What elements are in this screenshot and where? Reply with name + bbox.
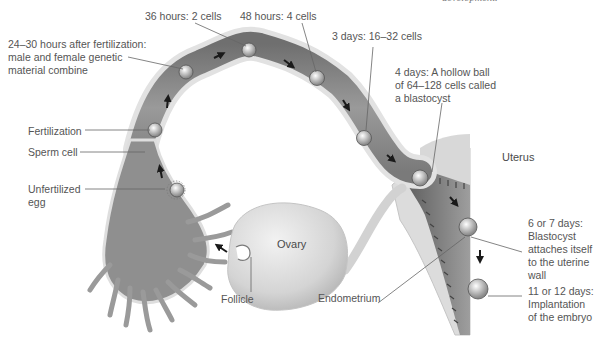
label-6-days-2: Blastocyst bbox=[528, 230, 576, 242]
label-unfertilized-2: egg bbox=[28, 196, 46, 208]
zygote-stage bbox=[179, 65, 193, 79]
label-4-days-1: 4 days: A hollow ball bbox=[395, 66, 490, 78]
label-4-days-3: a blastocyst bbox=[395, 92, 450, 104]
label-combine-1: 24–30 hours after fertilization: bbox=[8, 38, 146, 50]
arrow-icon bbox=[218, 246, 227, 252]
fertilized-egg bbox=[148, 123, 162, 137]
label-11-days-1: 11 or 12 days: bbox=[528, 285, 594, 297]
label-3-days: 3 days: 16–32 cells bbox=[332, 30, 422, 42]
attaching-blastocyst bbox=[459, 218, 477, 236]
label-uterus: Uterus bbox=[502, 151, 534, 163]
label-11-days-3: of the embryo bbox=[528, 311, 592, 323]
label-11-days-2: Implantation bbox=[528, 298, 585, 310]
label-6-days-4: to the uterine bbox=[528, 256, 589, 268]
unfertilized-egg bbox=[170, 183, 184, 197]
morula-stage bbox=[357, 131, 372, 146]
fertilization-diagram: development. bbox=[0, 0, 605, 342]
four-cell-stage bbox=[310, 71, 325, 86]
label-fertilization: Fertilization bbox=[28, 125, 82, 137]
label-combine-3: material combine bbox=[8, 64, 88, 76]
label-6-days-5: wall bbox=[528, 269, 546, 281]
label-48-hours: 48 hours: 4 cells bbox=[240, 10, 316, 22]
label-combine-2: male and female genetic bbox=[8, 51, 122, 63]
label-endometrium: Endometrium bbox=[318, 292, 380, 304]
label-4-days-2: of 64–128 cells called bbox=[395, 79, 496, 91]
blastocyst bbox=[412, 170, 428, 186]
arrow-icon bbox=[167, 98, 168, 108]
label-ovary: Ovary bbox=[277, 238, 306, 250]
label-sperm-cell: Sperm cell bbox=[28, 146, 78, 158]
label-36-hours: 36 hours: 2 cells bbox=[145, 10, 221, 22]
implanted-embryo bbox=[468, 279, 488, 299]
label-6-days-3: attaches itself bbox=[528, 243, 592, 255]
label-unfertilized-1: Unfertilized bbox=[28, 183, 81, 195]
label-follicle: Follicle bbox=[221, 293, 254, 305]
label-6-days-1: 6 or 7 days: bbox=[528, 217, 583, 229]
